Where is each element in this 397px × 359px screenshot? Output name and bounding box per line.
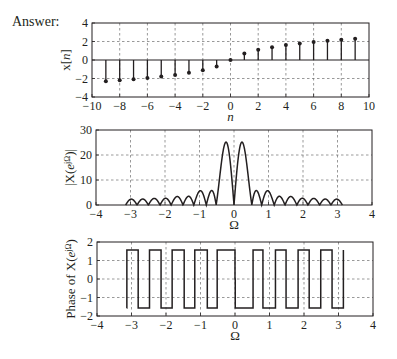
y-axis-label: |X(ejΩ)|	[62, 149, 77, 186]
y-axis-label: x[n]	[58, 49, 73, 71]
x-tick-label: 6	[311, 99, 317, 113]
stem-marker	[118, 78, 122, 82]
stem-marker	[132, 77, 136, 81]
stem-marker	[298, 41, 302, 45]
y-tick-label: −2	[75, 72, 88, 86]
stem-marker	[270, 45, 274, 49]
y-tick-label: −4	[75, 90, 88, 104]
y-tick-label: 20	[80, 148, 92, 162]
chart-stem: −10−8−6−4−20246810−4−2024nx[n]	[58, 16, 375, 124]
stem-marker	[159, 75, 163, 79]
x-tick-label: −6	[141, 99, 154, 113]
x-tick-label: −2	[159, 207, 172, 221]
stem-marker	[284, 43, 288, 47]
x-tick-label: 10	[363, 99, 375, 113]
stem-marker	[339, 38, 343, 42]
chart-phase: −4−3−2−101234−2−1012ΩPhase of X(ejΩ)	[63, 235, 376, 343]
stem-marker	[312, 40, 316, 44]
chart-magnitude: −4−3−2−1012340102030Ω|X(ejΩ)|	[62, 123, 375, 232]
stem-marker	[242, 52, 246, 56]
x-tick-label: 4	[369, 207, 375, 221]
x-tick-label: 1	[266, 207, 272, 221]
stem-marker	[353, 37, 357, 41]
x-axis-label: Ω	[230, 328, 240, 343]
y-tick-label: 0	[87, 272, 93, 286]
x-tick-label: 3	[335, 207, 341, 221]
y-tick-label: 2	[87, 235, 93, 249]
y-tick-label: −2	[80, 309, 93, 323]
stem-marker	[325, 39, 329, 43]
y-tick-label: 0	[86, 198, 92, 212]
y-tick-label: 10	[80, 173, 92, 187]
y-tick-label: 0	[82, 53, 88, 67]
x-tick-label: −8	[113, 99, 126, 113]
x-axis-label: Ω	[229, 217, 239, 232]
x-tick-label: −1	[193, 207, 206, 221]
stem-marker	[173, 73, 177, 77]
x-tick-label: −2	[196, 99, 209, 113]
stem-marker	[104, 79, 108, 83]
x-tick-label: −3	[124, 207, 137, 221]
x-tick-label: −2	[160, 318, 173, 332]
y-tick-label: 30	[80, 123, 92, 137]
x-tick-label: 8	[338, 99, 344, 113]
y-tick-label: 4	[82, 16, 88, 30]
figure: −10−8−6−4−20246810−4−2024nx[n]−4−3−2−101…	[0, 0, 397, 359]
x-tick-label: 4	[283, 99, 289, 113]
stem-marker	[201, 68, 205, 72]
y-axis-label: Phase of X(ejΩ)	[63, 239, 78, 319]
stem-marker	[145, 76, 149, 80]
y-tick-label: 2	[82, 35, 88, 49]
stem-marker	[215, 64, 219, 68]
y-tick-label: 1	[87, 254, 93, 268]
x-tick-label: 2	[301, 318, 307, 332]
x-tick-label: 4	[370, 318, 376, 332]
stem-marker	[187, 71, 191, 75]
x-tick-label: 1	[267, 318, 273, 332]
x-tick-label: −4	[169, 99, 182, 113]
y-tick-label: −1	[80, 291, 93, 305]
stem-marker	[229, 58, 233, 62]
stem-marker	[256, 48, 260, 52]
x-tick-label: −3	[125, 318, 138, 332]
x-tick-label: 3	[336, 318, 342, 332]
x-tick-label: 2	[255, 99, 261, 113]
x-tick-label: −1	[194, 318, 207, 332]
x-tick-label: 2	[300, 207, 306, 221]
x-axis-label: n	[227, 109, 234, 124]
